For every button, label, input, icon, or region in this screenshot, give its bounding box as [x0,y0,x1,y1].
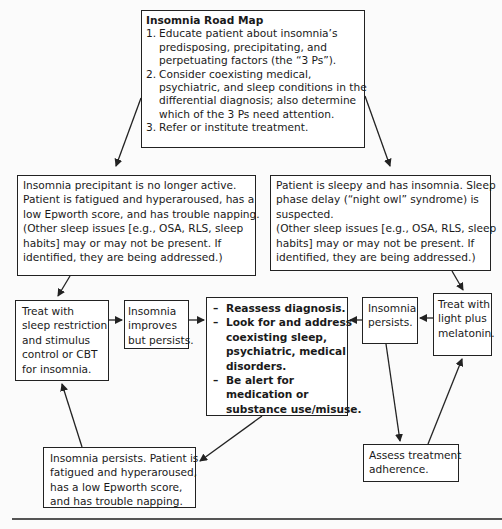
sleep-phase-delay-box: Patient is sleepy and has insomnia. Slee… [270,175,491,271]
roadmap-step: 3.Refer or institute treatment. [146,121,360,134]
insomnia-improves-box: Insomnia improves but persists. [124,300,189,349]
bottom-divider [12,518,502,520]
roadmap-step: 2.Consider coexisting medical, psychiatr… [146,68,360,122]
reassess-item: –Be alert for medication or substance us… [213,373,341,416]
reassess-box: –Reassess diagnosis. –Look for and addre… [206,297,348,416]
sleep-restriction-treatment-box: Treat with sleep restriction and stimulu… [15,300,109,381]
arrow-roadmap-to-left [116,98,141,166]
precipitant-inactive-box: Insomnia precipitant is no longer active… [17,175,256,276]
insomnia-persists-box: Insomnia persists. [362,297,418,344]
roadmap-heading: Insomnia Road Map [146,14,360,27]
insomnia-persists-fatigued-box: Insomnia persists. Patient is fatigued a… [43,447,196,508]
arrow-roadmap-to-right [365,96,390,166]
light-melatonin-treatment-box: Treat with light plus melatonin. [433,293,492,356]
assess-adherence-box: Assess treatment adherence. [363,444,459,482]
reassess-item: –Reassess diagnosis. [213,301,341,315]
roadmap-steps: 1.Educate patient about insomnia’s predi… [146,27,360,134]
roadmap-box: Insomnia Road Map 1.Educate patient abou… [141,10,365,148]
roadmap-step: 1.Educate patient about insomnia’s predi… [146,27,360,67]
reassess-item: –Look for and address coexisting sleep, … [213,315,341,373]
